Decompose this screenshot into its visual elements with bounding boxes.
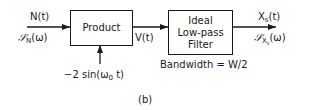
input-spectrum-label: 𝒮N(ω) (18, 32, 47, 47)
carrier-label: −2 sin(ω0 t) (64, 69, 124, 84)
spectrum-symbol-icon: 𝒮 (18, 32, 26, 43)
filter-label-line3: Filter (188, 39, 213, 51)
product-label: Product (83, 22, 121, 34)
output-spectrum-label: 𝒮Xs(ω) (254, 32, 286, 49)
intermediate-label: V(t) (135, 32, 154, 43)
input-time-label: N(t) (30, 11, 49, 22)
output-time-label: Xs(t) (258, 11, 280, 26)
lowpass-filter-block: Ideal Low-pass Filter (168, 10, 233, 55)
figure-caption: (b) (138, 94, 152, 105)
product-block: Product (70, 10, 133, 46)
spectrum-symbol-icon: 𝒮 (254, 32, 262, 43)
filter-label-line1: Ideal (188, 15, 212, 27)
filter-label-line2: Low-pass (177, 27, 223, 39)
bandwidth-annotation: Bandwidth = W/2 (160, 59, 248, 70)
